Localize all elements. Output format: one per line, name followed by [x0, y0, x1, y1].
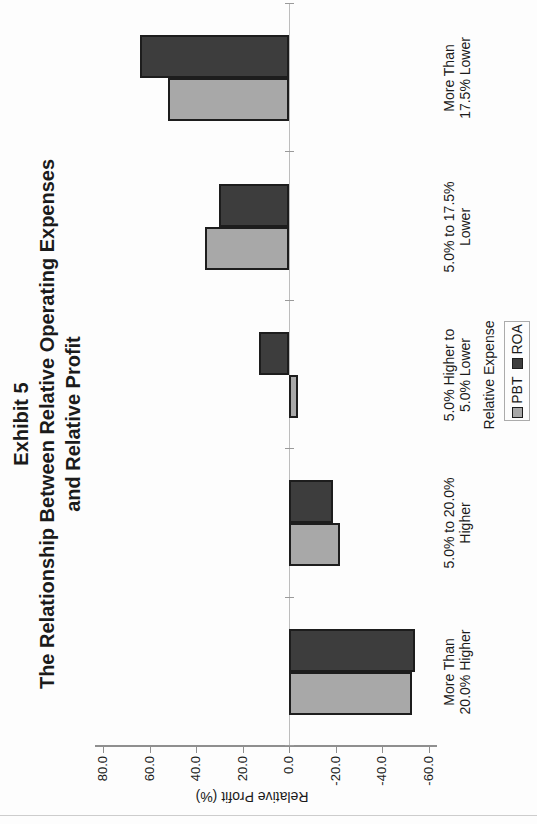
bar-pbt-4 — [168, 78, 289, 121]
legend: PBT ROA — [504, 321, 530, 421]
legend-item-pbt: PBT — [510, 377, 524, 418]
category-boundary-tick — [285, 3, 294, 4]
bar-roa-4 — [140, 35, 289, 78]
legend-swatch-pbt — [512, 407, 523, 418]
value-axis-tick — [243, 747, 244, 753]
value-axis-tick — [336, 747, 337, 753]
legend-label-pbt: PBT — [510, 377, 524, 404]
legend-item-roa: ROA — [510, 324, 524, 368]
value-axis-line — [95, 745, 437, 747]
category-label-line: 5.0% to 17.5% — [441, 154, 457, 300]
category-label-1: 5.0% to 20.0%Higher — [441, 450, 473, 596]
value-axis-tick-label: -20.0 — [328, 756, 344, 808]
value-axis-tick-label: 80.0 — [95, 756, 111, 808]
category-boundary-tick — [285, 300, 294, 301]
bar-pbt-0 — [289, 672, 412, 715]
plot-area: 80.060.040.020.00.0-20.0-40.0-60.0More T… — [0, 0, 537, 824]
value-axis-tick-label: -60.0 — [421, 756, 437, 808]
category-label-line: 5.0% Lower — [457, 302, 473, 448]
page-edge-line — [0, 815, 537, 816]
bar-pbt-3 — [205, 227, 289, 270]
category-label-line: 20.0% Higher — [457, 599, 473, 745]
category-label-2: 5.0% Higher to5.0% Lower — [441, 302, 473, 448]
category-boundary-tick — [285, 745, 294, 746]
bar-roa-3 — [219, 184, 289, 227]
category-boundary-tick — [285, 151, 294, 152]
scanned-page: Exhibit 5 The Relationship Between Relat… — [0, 0, 537, 824]
category-label-line: Higher — [457, 450, 473, 596]
category-boundary-tick — [285, 448, 294, 449]
bar-roa-0 — [289, 629, 415, 672]
legend-label-roa: ROA — [510, 324, 524, 354]
bar-pbt-2 — [289, 375, 298, 418]
category-label-line: 5.0% to 20.0% — [441, 450, 457, 596]
value-axis-tick — [382, 747, 383, 753]
bar-roa-2 — [259, 332, 289, 375]
category-label-line: More Than — [441, 599, 457, 745]
category-label-3: 5.0% to 17.5%Lower — [441, 154, 473, 300]
category-boundary-tick — [285, 597, 294, 598]
x-axis-title: Relative Expense — [481, 321, 497, 430]
rotated-chart: Exhibit 5 The Relationship Between Relat… — [0, 0, 537, 824]
category-label-0: More Than20.0% Higher — [441, 599, 473, 745]
category-label-line: 5.0% Higher to — [441, 302, 457, 448]
bar-roa-1 — [289, 480, 333, 523]
bar-pbt-1 — [289, 523, 340, 566]
category-label-line: More Than — [441, 5, 457, 151]
category-label-line: 17.5% Lower — [457, 5, 473, 151]
category-label-line: Lower — [457, 154, 473, 300]
value-axis-tick — [196, 747, 197, 753]
y-axis-title: Relative Profit (%) — [196, 789, 309, 805]
value-axis-tick — [103, 747, 104, 753]
value-axis-tick — [150, 747, 151, 753]
value-axis-tick — [429, 747, 430, 753]
value-axis-tick-label: -40.0 — [374, 756, 390, 808]
category-label-4: More Than17.5% Lower — [441, 5, 473, 151]
value-axis-tick — [289, 747, 290, 753]
value-axis-tick-label: 60.0 — [142, 756, 158, 808]
legend-swatch-roa — [512, 358, 523, 369]
